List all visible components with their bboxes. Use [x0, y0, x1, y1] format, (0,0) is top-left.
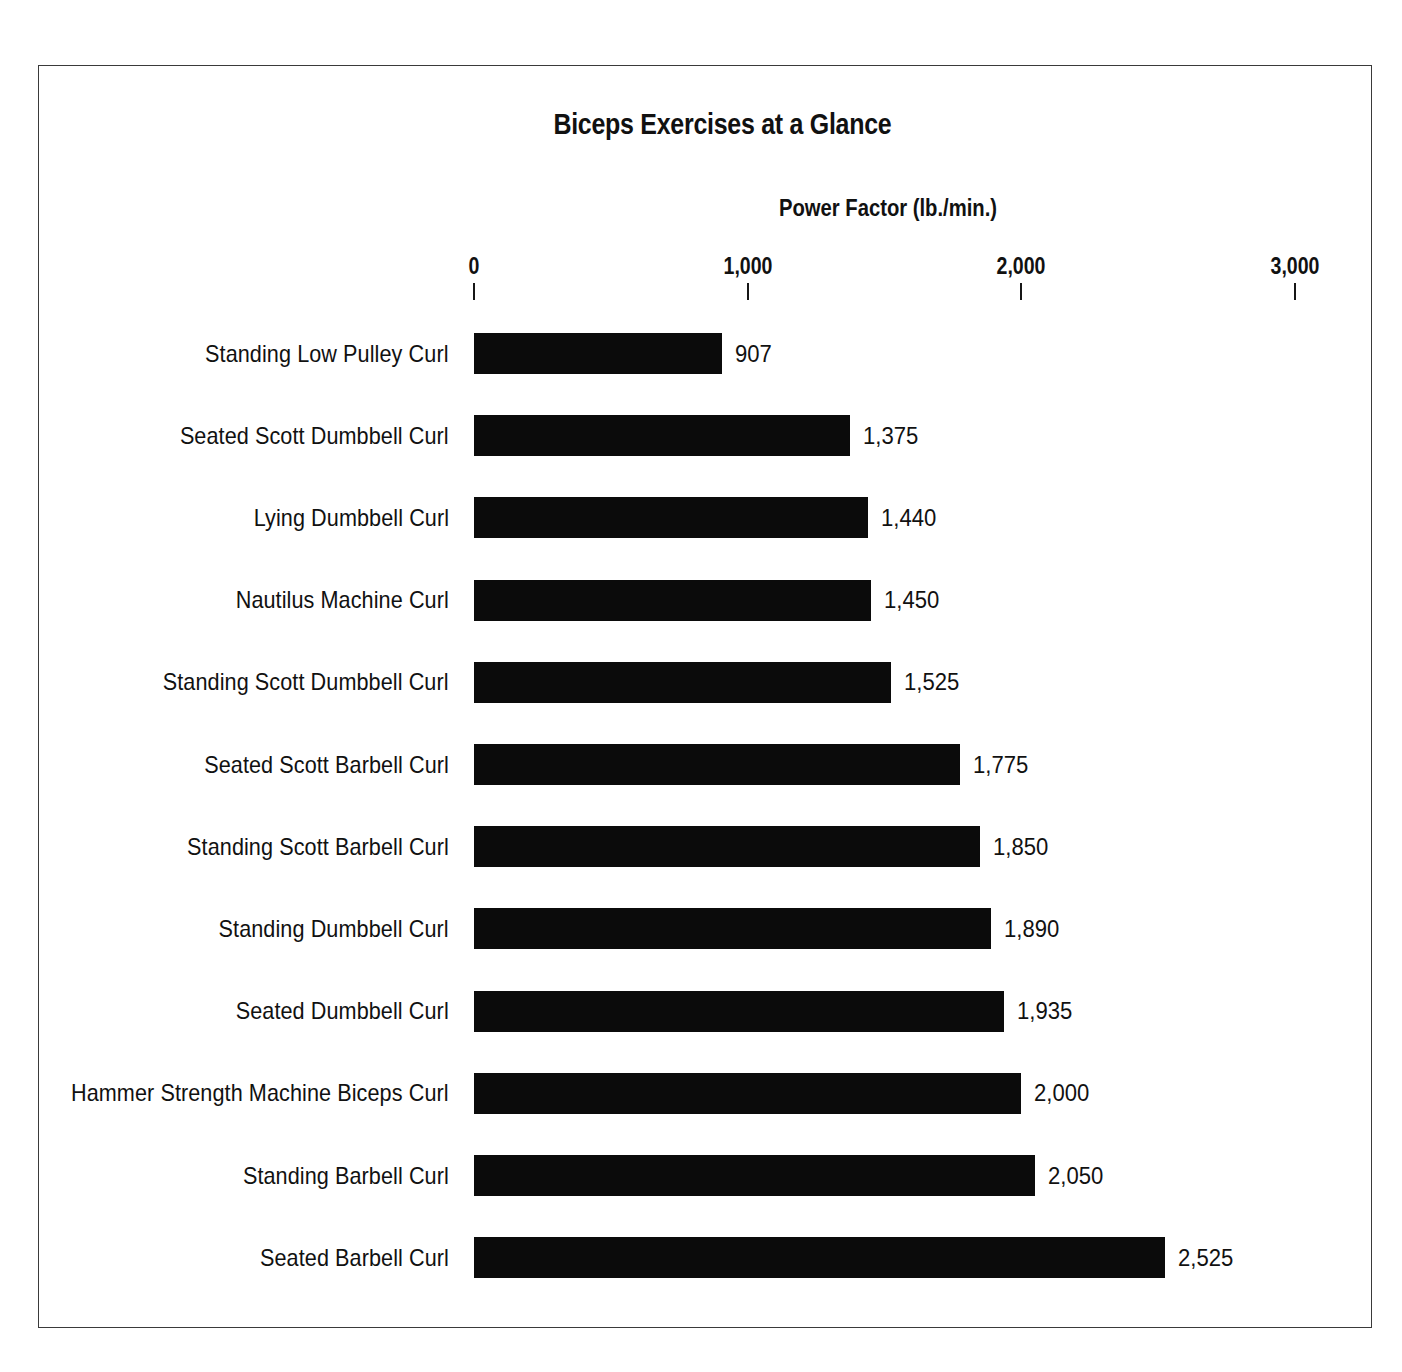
- category-label: Standing Scott Dumbbell Curl: [163, 668, 449, 696]
- bar-value-label: 1,935: [1017, 997, 1072, 1025]
- category-label: Nautilus Machine Curl: [236, 586, 449, 614]
- category-label: Seated Barbell Curl: [260, 1244, 449, 1272]
- category-label: Standing Barbell Curl: [243, 1162, 449, 1190]
- bar-row: Standing Barbell Curl2,050: [0, 1155, 1402, 1196]
- bar-row: Lying Dumbbell Curl1,440: [0, 497, 1402, 538]
- bar-rows-container: Standing Low Pulley Curl907Seated Scott …: [0, 0, 1402, 1372]
- category-label: Lying Dumbbell Curl: [254, 504, 449, 532]
- bar: [474, 497, 868, 538]
- bar-value-label: 1,850: [993, 833, 1048, 861]
- category-label: Standing Low Pulley Curl: [205, 340, 449, 368]
- bar-row: Hammer Strength Machine Biceps Curl2,000: [0, 1073, 1402, 1114]
- bar-value-label: 1,450: [884, 586, 939, 614]
- bar-row: Seated Scott Dumbbell Curl1,375: [0, 415, 1402, 456]
- chart-page: Biceps Exercises at a Glance Power Facto…: [0, 0, 1402, 1372]
- bar-value-label: 1,375: [863, 422, 918, 450]
- bar: [474, 1155, 1035, 1196]
- bar-value-label: 1,890: [1004, 915, 1059, 943]
- bar: [474, 991, 1004, 1032]
- bar: [474, 333, 722, 374]
- bar-value-label: 2,000: [1034, 1079, 1089, 1107]
- bar: [474, 662, 891, 703]
- bar: [474, 908, 991, 949]
- category-label: Standing Scott Barbell Curl: [187, 833, 449, 861]
- bar: [474, 415, 850, 456]
- bar-row: Standing Dumbbell Curl1,890: [0, 908, 1402, 949]
- bar-row: Seated Dumbbell Curl1,935: [0, 991, 1402, 1032]
- bar-row: Standing Scott Barbell Curl1,850: [0, 826, 1402, 867]
- bar: [474, 580, 871, 621]
- bar-value-label: 2,050: [1048, 1162, 1103, 1190]
- bar-row: Seated Scott Barbell Curl1,775: [0, 744, 1402, 785]
- bar-row: Nautilus Machine Curl1,450: [0, 580, 1402, 621]
- bar-row: Standing Low Pulley Curl907: [0, 333, 1402, 374]
- bar: [474, 1073, 1021, 1114]
- bar: [474, 1237, 1165, 1278]
- bar-value-label: 1,440: [881, 504, 936, 532]
- bar-value-label: 1,775: [973, 751, 1028, 779]
- bar-value-label: 2,525: [1178, 1244, 1233, 1272]
- category-label: Seated Scott Barbell Curl: [204, 751, 449, 779]
- bar-value-label: 907: [735, 340, 772, 368]
- bar: [474, 826, 980, 867]
- bar-value-label: 1,525: [904, 668, 959, 696]
- bar: [474, 744, 960, 785]
- bar-row: Seated Barbell Curl2,525: [0, 1237, 1402, 1278]
- category-label: Seated Dumbbell Curl: [236, 997, 449, 1025]
- category-label: Hammer Strength Machine Biceps Curl: [71, 1079, 449, 1107]
- category-label: Standing Dumbbell Curl: [219, 915, 449, 943]
- bar-row: Standing Scott Dumbbell Curl1,525: [0, 662, 1402, 703]
- category-label: Seated Scott Dumbbell Curl: [180, 422, 449, 450]
